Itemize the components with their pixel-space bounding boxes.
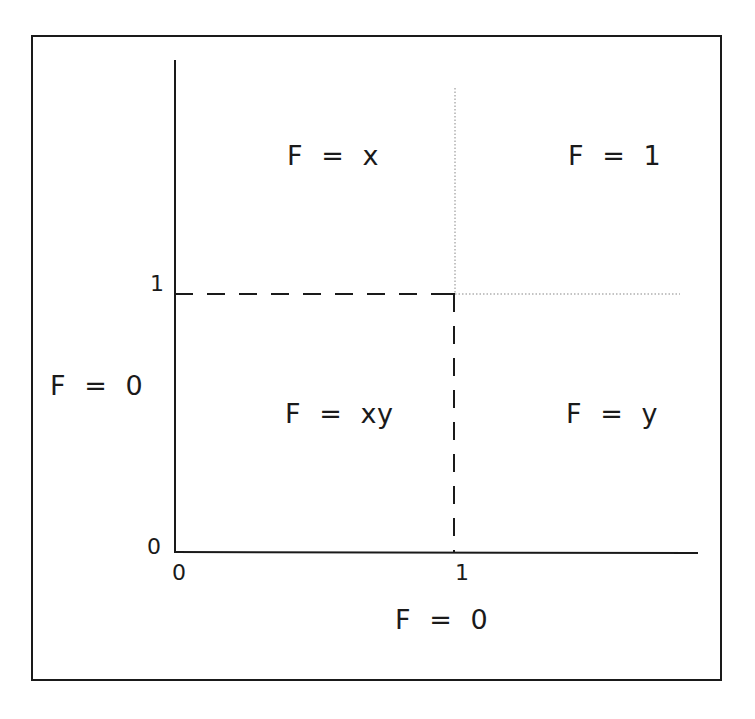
y-tick-zero: 0: [147, 536, 161, 558]
corner-mark: [438, 294, 454, 308]
y-tick-one: 1: [150, 273, 164, 295]
region-label-below-outside: F = 0: [395, 606, 488, 633]
region-label-left-outside: F = 0: [50, 372, 143, 399]
x-tick-zero: 0: [172, 562, 186, 584]
region-label-bottom-right: F = y: [566, 400, 658, 427]
region-label-bottom-left: F = xy: [285, 400, 393, 427]
region-label-top-right: F = 1: [568, 142, 661, 169]
region-label-top-left: F = x: [287, 142, 379, 169]
diagram-lines: [0, 0, 755, 719]
x-tick-one: 1: [455, 562, 469, 584]
x-axis: [174, 552, 698, 553]
